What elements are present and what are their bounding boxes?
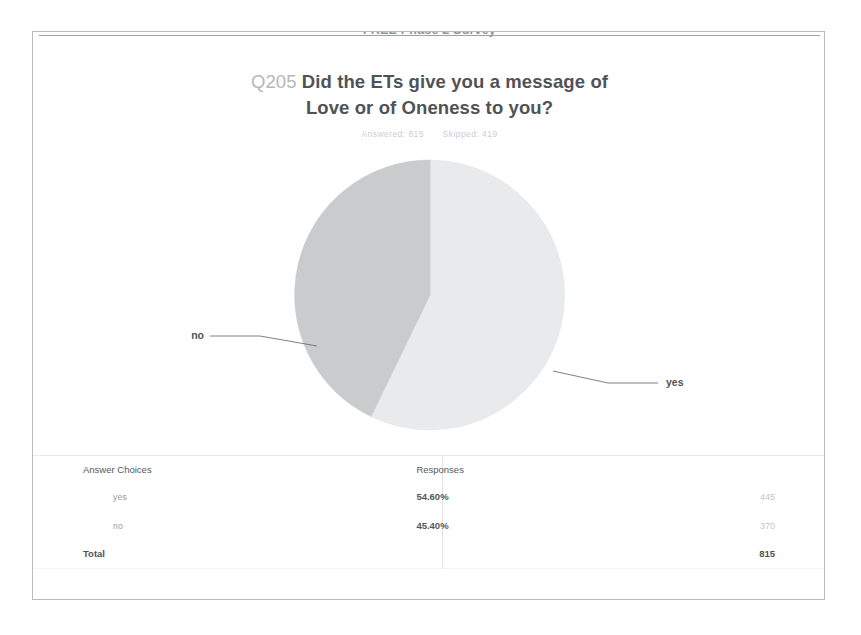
header-answer-choices: Answer Choices [81, 456, 402, 482]
table-row[interactable]: no 45.40% 370 [81, 511, 781, 540]
skipped-count: Skipped: 419 [443, 129, 498, 139]
results-table: Answer Choices Responses yes 54.60% 445 … [81, 456, 781, 567]
running-header: FREE Phase 2 Survey [33, 31, 825, 37]
question-line-1: Q205 Did the ETs give you a message of [93, 69, 766, 95]
response-meta: Answered: 815 Skipped: 419 [93, 129, 766, 139]
question-number: Q205 [251, 71, 297, 92]
total-label: Total [83, 548, 105, 559]
question-block: Q205 Did the ETs give you a message of L… [93, 69, 766, 121]
question-text-line1: Did the ETs give you a message of [302, 71, 608, 92]
row-count: 445 [760, 492, 775, 502]
table-total-row: Total 815 [81, 540, 781, 567]
answered-count: Answered: 815 [361, 129, 424, 139]
scanned-page: FREE Phase 2 Survey Q205 Did the ETs giv… [32, 31, 825, 600]
row-percent: 45.40% [416, 520, 448, 531]
running-header-text: FREE Phase 2 Survey [363, 31, 496, 37]
table-header-row: Answer Choices Responses [81, 456, 781, 482]
total-count: 815 [759, 548, 775, 559]
question-line-2: Love or of Oneness to you? [93, 95, 766, 121]
scan-artifact [33, 568, 825, 569]
pie-chart: no yes [33, 150, 825, 450]
pie-chart-svg: no yes [110, 150, 750, 440]
pie-label-yes: yes [666, 376, 684, 388]
pie-label-no: no [191, 329, 204, 341]
header-responses: Responses [402, 456, 668, 482]
question-text-line2: Love or of Oneness to you? [306, 97, 553, 118]
pie-leader-no [210, 336, 317, 346]
row-count: 370 [760, 521, 775, 531]
row-choice-label: no [83, 521, 123, 531]
row-percent: 54.60% [416, 491, 448, 502]
header-rule [39, 35, 820, 36]
table-row[interactable]: yes 54.60% 445 [81, 482, 781, 511]
row-choice-label: yes [83, 492, 127, 502]
header-responses-count [668, 456, 781, 482]
pie-leader-yes [553, 371, 658, 383]
